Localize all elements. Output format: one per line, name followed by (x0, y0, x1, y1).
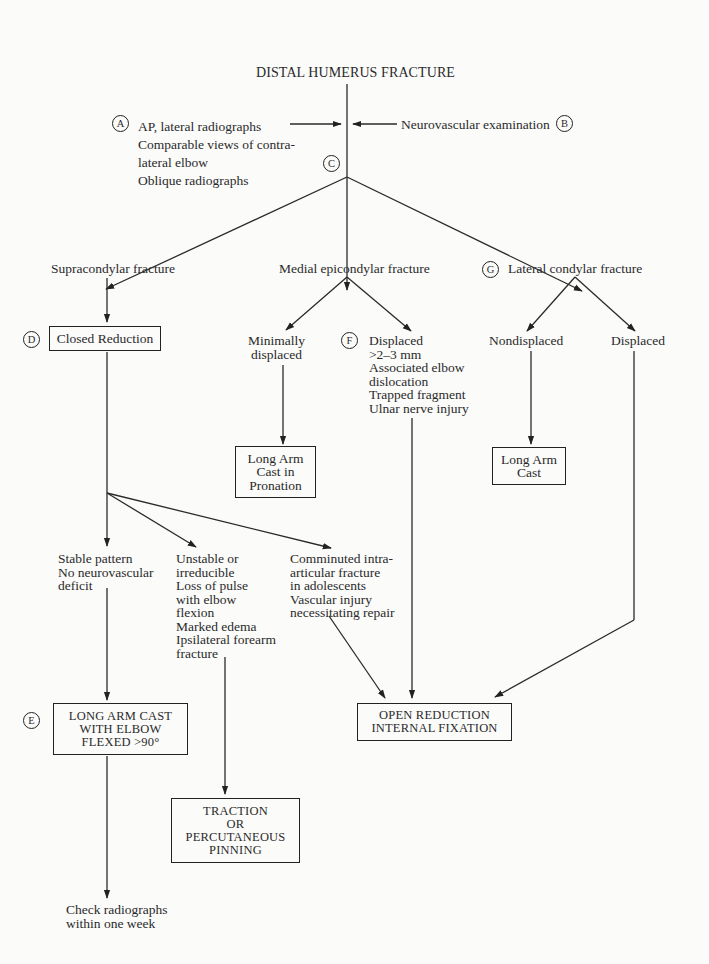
marker-d: D (23, 331, 40, 348)
marker-e: E (23, 712, 40, 729)
marker-a: A (112, 115, 129, 132)
nondisplaced-text: Nondisplaced (489, 334, 563, 348)
supracondylar-fracture-label: Supracondylar fracture (51, 262, 175, 276)
imaging-workup-text: AP, lateral radiographs Comparable views… (138, 118, 295, 190)
long-arm-cast-pronation-box: Long Arm Cast in Pronation (235, 446, 316, 498)
marker-c: C (323, 155, 340, 172)
marker-b: B (556, 115, 573, 132)
comminuted-text: Comminuted intra- articular fracture in … (290, 552, 395, 620)
long-arm-cast-box: Long Arm Cast (492, 447, 566, 485)
unstable-text: Unstable or irreducible Loss of pulse wi… (176, 552, 276, 660)
long-arm-cast-flexed-box: LONG ARM CAST WITH ELBOW FLEXED >90° (53, 703, 188, 755)
neurovascular-exam-text: Neurovascular examination (401, 118, 550, 132)
marker-g: G (482, 261, 499, 278)
traction-pinning-box: TRACTION OR PERCUTANEOUS PINNING (171, 798, 300, 863)
medial-displaced-text: Displaced >2–3 mm Associated elbow dislo… (369, 334, 469, 415)
flowchart-connectors (0, 0, 709, 964)
closed-reduction-box: Closed Reduction (49, 326, 161, 351)
stable-pattern-text: Stable pattern No neurovascular deficit (58, 552, 154, 593)
medial-epicondylar-fracture-label: Medial epicondylar fracture (279, 262, 430, 276)
lateral-condylar-fracture-label: Lateral condylar fracture (508, 262, 642, 276)
diagram-title: DISTAL HUMERUS FRACTURE (256, 66, 455, 80)
minimally-displaced-text: Minimally displaced (248, 334, 305, 361)
followup-text: Check radiographs within one week (66, 903, 168, 930)
marker-f: F (341, 332, 358, 349)
lateral-displaced-text: Displaced (611, 334, 665, 348)
open-reduction-internal-fixation-box: OPEN REDUCTION INTERNAL FIXATION (357, 703, 512, 741)
